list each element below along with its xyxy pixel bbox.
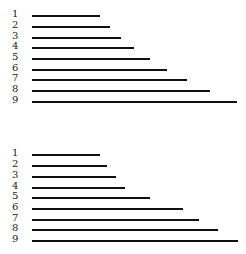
row-number-label: 3 [12,170,18,180]
row-number-label: 8 [12,84,18,94]
length-line [32,79,187,81]
line-row: 8 [0,86,246,96]
row-number-label: 9 [12,95,18,105]
length-line [32,90,210,92]
row-number-label: 5 [12,191,18,201]
line-row: 7 [0,75,246,85]
row-number-label: 1 [12,148,18,158]
length-line [32,15,100,17]
line-row: 5 [0,193,246,203]
line-row: 6 [0,65,246,75]
row-number-label: 2 [12,20,18,30]
line-row: 2 [0,161,246,171]
length-line [32,187,125,189]
line-row: 2 [0,22,246,32]
line-row: 5 [0,54,246,64]
line-row: 3 [0,33,246,43]
row-number-label: 4 [12,41,18,51]
line-row: 4 [0,43,246,53]
length-line [32,176,116,178]
line-row: 6 [0,204,246,214]
row-number-label: 6 [12,202,18,212]
line-row: 9 [0,236,246,246]
length-line [32,47,134,49]
row-number-label: 1 [12,9,18,19]
length-line [32,165,107,167]
length-line [32,197,150,199]
line-row: 8 [0,225,246,235]
length-line [32,240,238,242]
length-line [32,154,100,156]
line-row: 1 [0,11,246,21]
length-line [32,101,237,103]
length-line [32,37,121,39]
row-number-label: 8 [12,223,18,233]
length-line [32,69,167,71]
line-row: 7 [0,215,246,225]
row-number-label: 9 [12,234,18,244]
row-number-label: 2 [12,159,18,169]
length-line [32,229,218,231]
row-number-label: 5 [12,52,18,62]
length-line [32,208,183,210]
row-number-label: 7 [12,73,18,83]
length-line [32,219,199,221]
line-row: 9 [0,97,246,107]
length-line [32,58,150,60]
line-row: 4 [0,183,246,193]
length-line [32,26,110,28]
line-row: 1 [0,150,246,160]
line-row: 3 [0,172,246,182]
